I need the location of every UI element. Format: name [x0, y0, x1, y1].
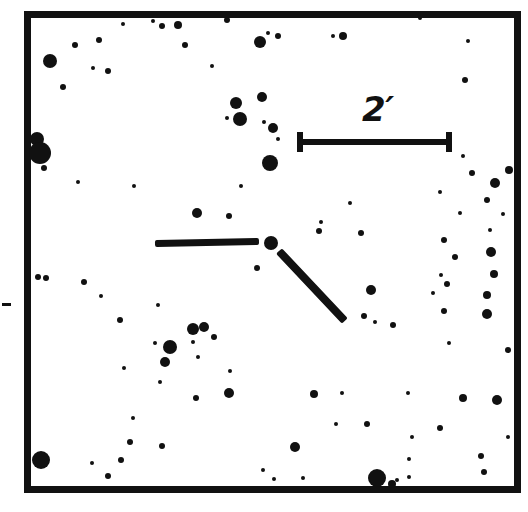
star-point [90, 461, 94, 465]
star-point [406, 391, 410, 395]
left-edge-tick [2, 303, 11, 306]
star-point [488, 228, 492, 232]
star-point [358, 230, 364, 236]
star-point [105, 68, 111, 74]
star-point [254, 265, 260, 271]
star-point [334, 422, 338, 426]
star-point [461, 154, 465, 158]
star-point [118, 457, 124, 463]
star-point [262, 155, 278, 171]
star-point [438, 190, 442, 194]
star-point [159, 443, 165, 449]
star-point [261, 468, 265, 472]
star-point [43, 275, 49, 281]
star-point [501, 212, 505, 216]
star-point [452, 254, 458, 260]
star-point [331, 34, 335, 38]
finding-chart: 2′ [0, 0, 528, 512]
scale-bar-label: 2′ [362, 92, 394, 126]
star-point [262, 120, 266, 124]
star-point [310, 390, 318, 398]
star-point [407, 457, 411, 461]
star-point [481, 469, 487, 475]
star-point [191, 340, 195, 344]
star-point [96, 37, 102, 43]
star-point [156, 303, 160, 307]
horizontal-bar [155, 238, 259, 247]
star-point [151, 19, 155, 23]
star-point [390, 322, 396, 328]
star-point [239, 184, 243, 188]
star-point [462, 77, 468, 83]
target-star [264, 236, 278, 250]
star-point [492, 395, 502, 405]
star-point [439, 273, 443, 277]
star-point [211, 334, 217, 340]
star-point [268, 123, 278, 133]
star-point [447, 341, 451, 345]
star-point [469, 170, 475, 176]
star-point [483, 291, 491, 299]
star-point [482, 309, 492, 319]
star-point [466, 39, 470, 43]
star-point [316, 228, 322, 234]
star-point [478, 453, 484, 459]
star-point [275, 33, 281, 39]
star-point [373, 320, 377, 324]
star-point [35, 274, 41, 280]
star-point [319, 220, 323, 224]
star-point [81, 279, 87, 285]
star-point [72, 42, 78, 48]
star-point [159, 23, 165, 29]
star-point [226, 213, 232, 219]
star-point [192, 208, 202, 218]
star-point [506, 435, 510, 439]
star-point [193, 395, 199, 401]
star-point [160, 357, 170, 367]
star-point [174, 21, 182, 29]
star-point [459, 394, 467, 402]
star-point [41, 165, 47, 171]
star-point [441, 308, 447, 314]
star-point [361, 313, 367, 319]
star-point [490, 270, 498, 278]
star-point [441, 237, 447, 243]
star-point [486, 247, 496, 257]
star-point [505, 166, 513, 174]
star-point [105, 473, 111, 479]
star-point [348, 201, 352, 205]
star-field [0, 0, 528, 512]
star-point [224, 17, 230, 23]
star-point [418, 16, 422, 20]
star-point [410, 435, 414, 439]
star-point [395, 478, 399, 482]
star-point [60, 84, 66, 90]
star-point [254, 36, 266, 48]
star-point [490, 178, 500, 188]
star-point [407, 475, 411, 479]
star-point [117, 317, 123, 323]
star-point [182, 42, 188, 48]
star-point [225, 116, 229, 120]
star-point [257, 92, 267, 102]
star-point [233, 112, 247, 126]
star-point [230, 97, 242, 109]
star-point [276, 137, 280, 141]
star-point [43, 54, 57, 68]
star-point [131, 416, 135, 420]
scale-bar-right-cap [446, 132, 452, 152]
star-point [290, 442, 300, 452]
star-point [76, 180, 80, 184]
star-point [199, 322, 209, 332]
star-point [163, 340, 177, 354]
star-point [29, 142, 51, 164]
star-point [127, 439, 133, 445]
star-point [99, 294, 103, 298]
scale-bar-left-cap [297, 132, 303, 152]
star-point [340, 391, 344, 395]
star-point [132, 184, 136, 188]
star-point [437, 425, 443, 431]
star-point [228, 369, 232, 373]
star-point [505, 347, 511, 353]
star-point [32, 451, 50, 469]
